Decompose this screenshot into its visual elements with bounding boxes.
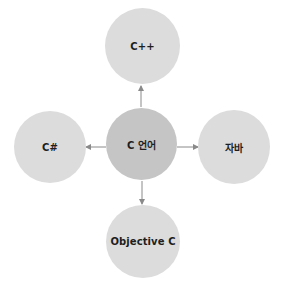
language-derivation-diagram: C++ C# C 언어 자바 Objective C [0,0,281,290]
node-java-label: 자바 [225,140,243,155]
node-cpp: C++ [105,8,180,84]
node-objective-c-label: Objective C [110,236,175,247]
node-c-language: C 언어 [106,108,177,180]
node-c-language-label: C 언어 [127,137,156,152]
node-java: 자바 [198,110,270,184]
node-cpp-label: C++ [130,41,154,52]
node-csharp: C# [14,111,86,183]
node-objective-c: Objective C [106,205,180,278]
node-csharp-label: C# [42,142,58,153]
